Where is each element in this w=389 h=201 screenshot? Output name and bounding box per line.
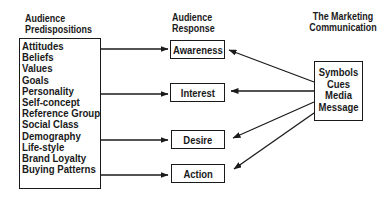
arrow-comm-to-desire [233,102,314,138]
connector-arrows [0,0,389,201]
arrow-comm-to-awareness [229,50,314,82]
arrow-comm-to-action [234,113,314,169]
